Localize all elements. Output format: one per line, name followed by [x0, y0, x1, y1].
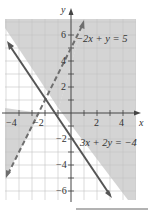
- x-tick-label: 4: [119, 117, 124, 128]
- x-axis-arrow-icon: [134, 111, 141, 116]
- y-tick-label: −6: [56, 185, 67, 196]
- x-tick-label: −2: [33, 117, 44, 128]
- graph: y x −4 −2 2 4 6 4 2 −2 −4 −6 −2x + y = 5…: [0, 0, 148, 212]
- y-axis-arrow-icon: [69, 8, 74, 15]
- equation-label-dashed: −2x + y = 5: [76, 33, 128, 44]
- y-tick-label: 2: [61, 81, 66, 92]
- y-tick-label: 4: [61, 55, 66, 66]
- y-axis-label: y: [60, 4, 66, 15]
- x-tick-label: 2: [94, 117, 99, 128]
- x-axis-label: x: [138, 117, 144, 128]
- x-tick-label: −4: [6, 117, 17, 128]
- y-tick-label: −2: [56, 133, 67, 144]
- y-tick-label: 6: [61, 29, 66, 40]
- y-tick-label: −4: [56, 159, 67, 170]
- equation-label-solid: 3x + 2y = −4: [79, 137, 138, 148]
